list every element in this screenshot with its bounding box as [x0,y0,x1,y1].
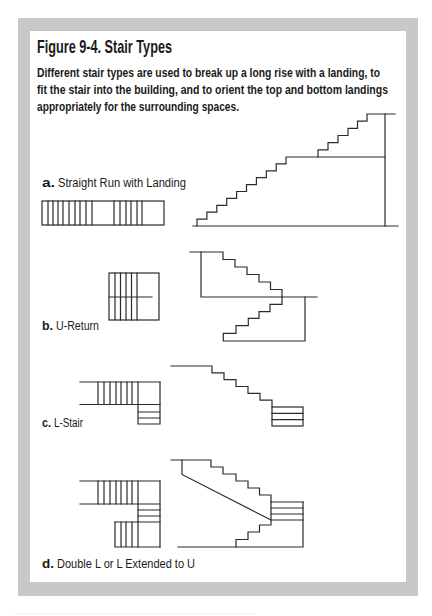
figure-caption-line-2: fit the stair into the building, and to … [37,82,388,97]
diagram-d-letter: d. [42,557,54,571]
diagram-a-label: Straight Run with Landing [58,176,186,190]
figure-caption-line-3: appropriately for the surrounding spaces… [37,99,239,114]
diagram-a-letter: a. [42,176,55,190]
figure-page: Figure 9-4. Stair Types Different stair … [0,0,432,616]
diagram-c-label: L-Stair [54,416,83,430]
diagram-b-label: U-Return [56,319,99,333]
diagram-b-letter: b. [42,319,53,333]
figure-caption-line-1: Different stair types are used to break … [37,65,380,80]
diagram-d-label: Double L or L Extended to U [57,557,195,571]
diagram-c-letter: c. [42,416,51,430]
figure-title: Figure 9-4. Stair Types [37,36,172,57]
